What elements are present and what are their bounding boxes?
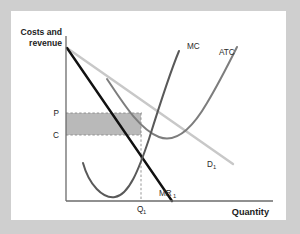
price-tick-label: P: [54, 109, 60, 118]
y-axis-label-line2: revenue: [29, 38, 62, 48]
mc-curve-label: MC: [187, 42, 200, 51]
demand-curve-label-subscript: 1: [213, 164, 216, 170]
y-axis-label-line1: Costs and: [20, 27, 62, 37]
demand-curve: [67, 48, 233, 164]
cost-tick-label: C: [53, 131, 59, 140]
marginal-revenue-curve-label-subscript: 1: [173, 193, 176, 199]
cost-revenue-chart: Costs and revenue Quantity P C Q 1 MC AT…: [11, 11, 286, 220]
marginal-revenue-curve-label: MR: [159, 189, 172, 198]
atc-curve-label: ATC: [219, 48, 235, 57]
profit-rectangle: [66, 113, 141, 135]
figure-card: Costs and revenue Quantity P C Q 1 MC AT…: [11, 11, 286, 220]
x-axis-label: Quantity: [232, 207, 270, 217]
figure-root: Costs and revenue Quantity P C Q 1 MC AT…: [0, 0, 300, 234]
quantity-tick-subscript: 1: [143, 209, 146, 215]
